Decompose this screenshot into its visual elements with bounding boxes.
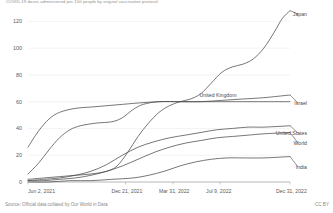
chart-container: COVID-19 doses administered per 100 peop…	[0, 0, 333, 213]
series-label[interactable]: United Kingdom	[200, 92, 237, 98]
y-axis-tick-label: 60	[0, 99, 22, 105]
x-axis-ticks	[28, 182, 290, 185]
x-axis-tick-label: Jul 9, 2022	[206, 188, 231, 194]
y-axis-tick-label: 20	[0, 152, 22, 158]
series-lines	[28, 11, 298, 182]
series-label[interactable]: United States	[276, 130, 307, 136]
series-label[interactable]: India	[296, 164, 307, 170]
license-note[interactable]: CC BY	[315, 202, 329, 208]
y-axis-tick-label: 0	[0, 179, 22, 185]
y-axis-tick-label: 80	[0, 72, 22, 78]
source-note: Source: Official data collated by Our Wo…	[5, 202, 107, 208]
x-axis-tick-label: Jun 2, 2021	[28, 188, 55, 194]
plot-svg	[0, 8, 333, 190]
series-line[interactable]	[28, 132, 290, 180]
y-axis-tick-label: 100	[0, 45, 22, 51]
series-line[interactable]	[28, 95, 290, 147]
y-axis-tick-label: 40	[0, 125, 22, 131]
series-line[interactable]	[28, 157, 290, 183]
x-axis-tick-label: Mar 31, 2022	[159, 188, 190, 194]
series-label[interactable]: World	[294, 140, 307, 146]
chart-title: COVID-19 doses administered per 100 peop…	[6, 0, 326, 5]
x-axis-tick-label: Dec 31, 2022	[276, 188, 307, 194]
x-axis-tick-label: Dec 21, 2021	[111, 188, 142, 194]
y-axis-tick-label: 120	[0, 18, 22, 24]
series-label[interactable]: Israel	[294, 100, 307, 106]
plot-area	[0, 8, 333, 190]
series-label[interactable]: Japan	[293, 11, 307, 17]
series-line[interactable]	[28, 11, 290, 180]
